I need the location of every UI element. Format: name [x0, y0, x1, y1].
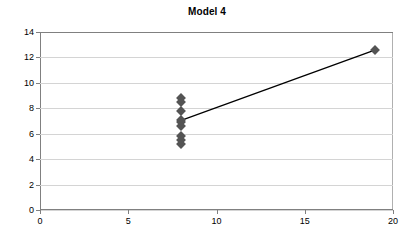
x-tick-label: 10 [202, 217, 232, 226]
x-tick-mark [128, 210, 129, 214]
x-tick-mark [393, 210, 394, 214]
trend-line [40, 32, 393, 210]
x-tick-label: 20 [378, 217, 408, 226]
chart-container: Model 4 02468101214 05101520 [0, 0, 414, 242]
x-tick-mark [217, 210, 218, 214]
y-tick-label: 6 [6, 129, 34, 138]
y-tick-label: 14 [6, 28, 34, 37]
y-tick-label: 12 [6, 53, 34, 62]
x-tick-mark [305, 210, 306, 214]
x-tick-mark [40, 210, 41, 214]
trend-line-segment [181, 50, 375, 121]
chart-title: Model 4 [0, 6, 414, 17]
x-tick-label: 15 [290, 217, 320, 226]
y-tick-label: 2 [6, 180, 34, 189]
y-tick-label: 8 [6, 104, 34, 113]
y-tick-label: 4 [6, 155, 34, 164]
plot-area: 02468101214 05101520 [40, 32, 393, 210]
y-tick-label: 0 [6, 206, 34, 215]
y-tick-label: 10 [6, 78, 34, 87]
x-tick-label: 0 [25, 217, 55, 226]
x-tick-label: 5 [113, 217, 143, 226]
